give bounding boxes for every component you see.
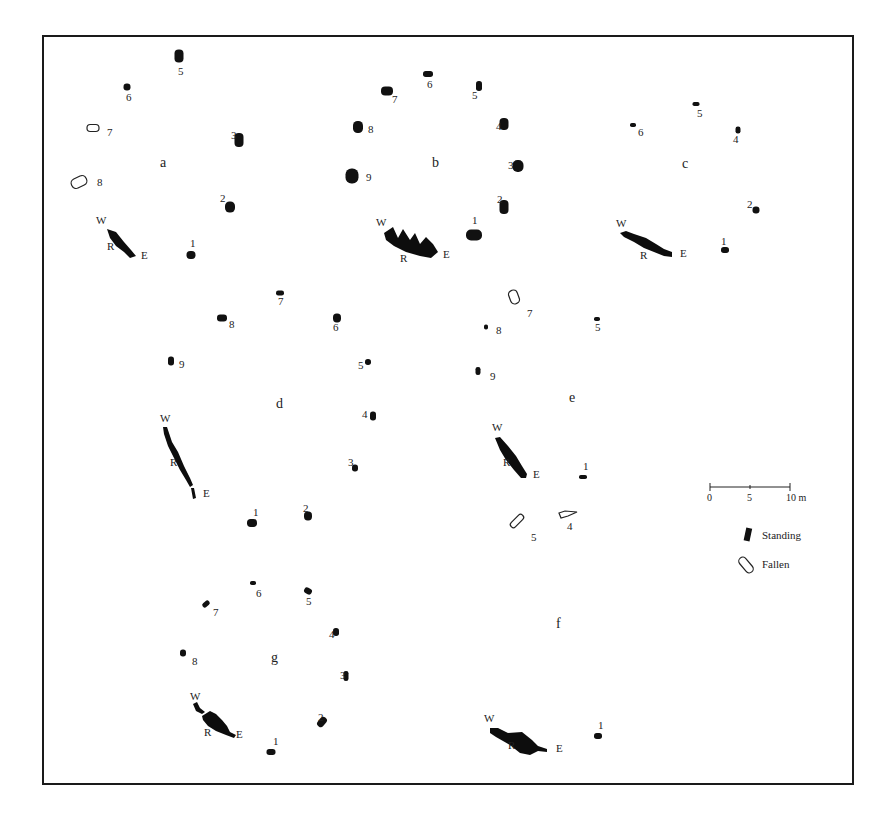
compass-label-east: E	[203, 487, 210, 499]
stone-number: 1	[273, 735, 279, 747]
standing-stone	[346, 169, 359, 184]
fallen-stone-icon	[737, 556, 755, 575]
stone-number: 1	[190, 237, 196, 249]
stone-number: 8	[192, 655, 198, 667]
standing-stone	[423, 71, 433, 77]
circle-label: g	[271, 650, 278, 665]
recumbent-stone	[193, 702, 236, 738]
stone-number: 4	[567, 520, 573, 532]
stone-number: 2	[747, 198, 753, 210]
stone-number: 7	[278, 295, 284, 307]
compass-label-east: E	[533, 468, 540, 480]
standing-stone-icon	[744, 528, 753, 542]
circle-c: cWRE12456	[616, 102, 760, 261]
circle-label: b	[432, 155, 439, 170]
standing-stone	[630, 123, 636, 127]
compass-label-east: E	[556, 742, 563, 754]
stone-number: 7	[213, 606, 219, 618]
stone-number: 5	[358, 359, 364, 371]
legend: Standing Fallen	[737, 528, 801, 575]
compass-label-west: W	[96, 214, 107, 226]
standing-stone	[250, 581, 256, 585]
stone-number: 5	[595, 321, 601, 333]
compass-label-recumbent: R	[503, 456, 511, 468]
circle-d: dWRE123456789	[160, 291, 376, 528]
stone-number: 1	[583, 460, 589, 472]
standing-stone	[168, 357, 174, 366]
circle-e: eWRE1455789	[476, 289, 602, 543]
circle-b: bWRE123456789	[346, 71, 524, 264]
stone-number: 9	[179, 358, 185, 370]
scale-bar: 0 5 10 m	[707, 483, 807, 503]
standing-stone	[217, 315, 227, 322]
stone-number: 8	[496, 324, 502, 336]
standing-stone	[225, 202, 235, 213]
compass-label-recumbent: R	[170, 456, 178, 468]
stone-number: 5	[697, 107, 703, 119]
compass-label-east: E	[141, 249, 148, 261]
fallen-stone	[509, 513, 525, 529]
compass-label-west: W	[160, 412, 171, 424]
stone-number: 7	[392, 93, 398, 105]
standing-stone	[267, 749, 276, 755]
circle-label: e	[569, 390, 575, 405]
fallen-stone	[87, 125, 99, 132]
standing-stone	[370, 412, 376, 421]
standing-stone	[466, 230, 482, 241]
stone-number: 4	[362, 408, 368, 420]
circle-label: d	[276, 396, 283, 411]
stone-number: 8	[97, 176, 103, 188]
standing-stone	[594, 733, 602, 739]
standing-stone	[513, 160, 524, 172]
circle-label: c	[682, 156, 688, 171]
standing-stone	[247, 519, 257, 527]
circle-g: gWRE12345678	[180, 581, 349, 755]
compass-label-east: E	[236, 728, 243, 740]
fallen-stone	[70, 174, 89, 190]
standing-stone	[476, 367, 481, 375]
stone-number: 1	[253, 506, 259, 518]
scale-tick-10: 10 m	[786, 492, 807, 503]
recumbent-stone	[490, 728, 547, 755]
stone-number: 2	[303, 502, 309, 514]
plan-frame	[43, 36, 853, 784]
compass-label-west: W	[492, 421, 503, 433]
stone-number: 7	[527, 307, 533, 319]
stone-number: 4	[733, 133, 739, 145]
compass-label-east: E	[680, 247, 687, 259]
compass-label-west: W	[376, 216, 387, 228]
standing-stone	[353, 121, 363, 133]
standing-stone	[721, 247, 729, 253]
fallen-stone	[559, 511, 577, 518]
site-plan: aWRE1235678bWRE123456789cWRE12456dWRE123…	[0, 0, 886, 823]
standing-stone	[201, 600, 210, 609]
compass-label-recumbent: R	[204, 726, 212, 738]
fallen-stone	[507, 289, 520, 305]
stone-number: 7	[107, 126, 113, 138]
standing-stone	[175, 50, 184, 63]
stone-number: 6	[256, 587, 262, 599]
stone-number: 6	[427, 78, 433, 90]
stone-number: 8	[368, 123, 374, 135]
stone-number: 2	[220, 192, 226, 204]
compass-label-west: W	[484, 712, 495, 724]
standing-stone	[753, 207, 760, 214]
standing-stone	[484, 325, 488, 330]
stone-number: 3	[340, 669, 346, 681]
circle-f: fWRE1	[484, 616, 604, 755]
stone-number: 4	[496, 120, 502, 132]
stone-number: 1	[721, 235, 727, 247]
legend-standing-label: Standing	[762, 529, 802, 541]
stone-number: 6	[126, 91, 132, 103]
standing-stone	[693, 102, 700, 106]
circle-a: aWRE1235678	[70, 50, 244, 262]
stone-number: 8	[229, 318, 235, 330]
compass-label-west: W	[190, 690, 201, 702]
standing-stone	[187, 251, 196, 259]
compass-label-recumbent: R	[508, 739, 516, 751]
stone-number: 3	[231, 129, 237, 141]
stone-number: 9	[490, 370, 496, 382]
scale-tick-0: 0	[707, 492, 712, 503]
stone-number: 5	[306, 595, 312, 607]
stone-number: 3	[348, 456, 354, 468]
